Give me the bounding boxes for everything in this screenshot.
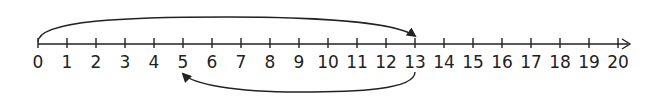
tick-label: 2 bbox=[91, 52, 102, 72]
number-line-svg: 01234567891011121314151617181920 bbox=[0, 0, 664, 100]
number-line-diagram: 01234567891011121314151617181920 bbox=[0, 0, 664, 100]
tick-label: 18 bbox=[549, 52, 571, 72]
tick-label: 15 bbox=[462, 52, 484, 72]
tick-label: 19 bbox=[578, 52, 600, 72]
tick-labels: 01234567891011121314151617181920 bbox=[33, 52, 629, 72]
tick-label: 1 bbox=[62, 52, 73, 72]
jump-arc-forward-0-to-13 bbox=[38, 17, 415, 42]
tick-label: 8 bbox=[265, 52, 276, 72]
tick-label: 4 bbox=[149, 52, 160, 72]
tick-label: 0 bbox=[33, 52, 44, 72]
tick-label: 16 bbox=[491, 52, 513, 72]
tick-label: 6 bbox=[207, 52, 218, 72]
tick-label: 14 bbox=[433, 52, 455, 72]
tick-label: 20 bbox=[607, 52, 629, 72]
tick-label: 17 bbox=[520, 52, 542, 72]
tick-label: 5 bbox=[178, 52, 189, 72]
tick-label: 10 bbox=[317, 52, 339, 72]
tick-label: 13 bbox=[404, 52, 426, 72]
tick-marks bbox=[38, 38, 618, 48]
jump-arc-backward-13-to-5 bbox=[183, 72, 415, 92]
tick-label: 9 bbox=[294, 52, 305, 72]
tick-label: 11 bbox=[346, 52, 368, 72]
tick-label: 12 bbox=[375, 52, 397, 72]
tick-label: 7 bbox=[236, 52, 247, 72]
tick-label: 3 bbox=[120, 52, 131, 72]
